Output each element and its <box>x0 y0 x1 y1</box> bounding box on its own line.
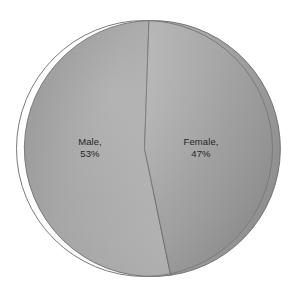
pie-chart: Male, 53% Female, 47% <box>0 0 289 297</box>
pie-slice-label-male-name: Male, <box>56 136 124 148</box>
pie-slice-label-female: Female, 47% <box>164 136 238 159</box>
pie-slice-label-male-value: 53% <box>56 148 124 160</box>
pie-chart-canvas <box>0 0 289 297</box>
pie-slice-label-male: Male, 53% <box>56 136 124 159</box>
pie-slice-label-female-value: 47% <box>164 148 238 160</box>
pie-slice-label-female-name: Female, <box>164 136 238 148</box>
